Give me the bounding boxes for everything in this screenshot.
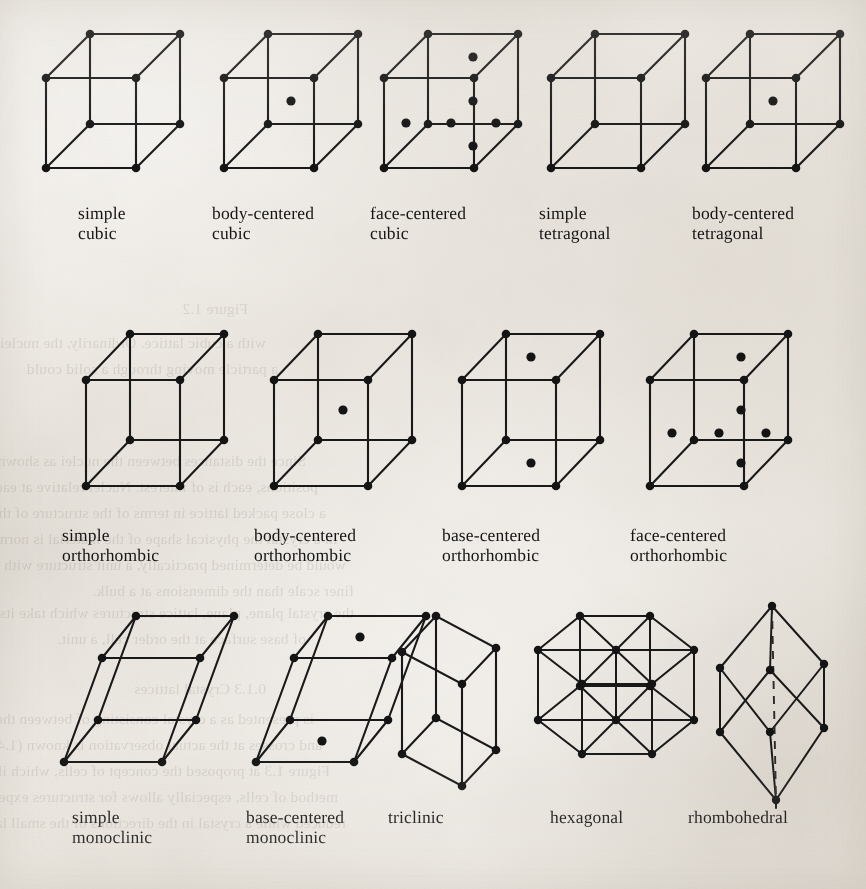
face-dot-top	[736, 352, 745, 361]
cell-face-centered-orthorhombic: face-centered orthorhombic	[644, 328, 794, 496]
cell-hexagonal: hexagonal	[528, 606, 704, 796]
body-center-dot	[338, 405, 347, 414]
rhombohedral-diagram	[712, 600, 840, 810]
simple-orthorhombic-diagram	[80, 328, 230, 496]
face-centered-orthorhombic-diagram	[644, 328, 794, 496]
simple-tetragonal-diagram	[545, 28, 691, 174]
body-center-dot	[286, 96, 295, 105]
body-centered-orthorhombic-diagram	[268, 328, 418, 496]
cell-simple-tetragonal: simple tetragonal	[545, 28, 691, 174]
caption-rhombohedral: rhombohedral	[688, 808, 788, 828]
cell-triclinic: triclinic	[388, 610, 512, 794]
hex-top-center-dot	[612, 646, 620, 654]
simple-cubic-diagram	[40, 28, 186, 174]
apex-top	[768, 602, 776, 610]
base-centered-orthorhombic-diagram	[456, 328, 606, 496]
body-centered-cubic-diagram	[218, 28, 364, 174]
base-center-dot-bottom	[526, 458, 535, 467]
face-dot-back	[468, 96, 477, 105]
face-dot-bottom	[468, 141, 477, 150]
face-dot-left	[401, 118, 410, 127]
caption-body-centered-cubic: body-centered cubic	[212, 204, 314, 243]
cell-simple-monoclinic: simple monoclinic	[58, 610, 248, 780]
cell-body-centered-cubic: body-centered cubic	[218, 28, 364, 174]
face-dot-back	[736, 405, 745, 414]
face-dot-top	[468, 52, 477, 61]
caption-body-centered-tetragonal: body-centered tetragonal	[692, 204, 794, 243]
caption-body-centered-orthorhombic: body-centered orthorhombic	[254, 526, 356, 565]
face-dot-left	[667, 428, 676, 437]
caption-simple-monoclinic: simple monoclinic	[72, 808, 152, 847]
caption-face-centered-cubic: face-centered cubic	[370, 204, 466, 243]
caption-simple-orthorhombic: simple orthorhombic	[62, 526, 159, 565]
caption-base-centered-orthorhombic: base-centered orthorhombic	[442, 526, 540, 565]
cell-body-centered-tetragonal: body-centered tetragonal	[700, 28, 846, 174]
cell-face-centered-cubic: face-centered cubic	[378, 28, 524, 174]
cell-base-centered-orthorhombic: base-centered orthorhombic	[456, 328, 606, 496]
base-center-dot-top	[355, 632, 364, 641]
caption-face-centered-orthorhombic: face-centered orthorhombic	[630, 526, 727, 565]
bravais-lattice-figure: simple cubic	[0, 0, 866, 889]
body-center-dot	[768, 96, 777, 105]
cell-body-centered-orthorhombic: body-centered orthorhombic	[268, 328, 418, 496]
cell-simple-cubic: simple cubic	[40, 28, 186, 174]
caption-simple-cubic: simple cubic	[78, 204, 126, 243]
face-dot-front	[446, 118, 455, 127]
base-center-dot-bottom	[317, 736, 326, 745]
cell-simple-orthorhombic: simple orthorhombic	[80, 328, 230, 496]
hex-bottom-center-dot	[612, 716, 620, 724]
apex-bottom	[772, 796, 780, 804]
base-center-dot-top	[526, 352, 535, 361]
face-dot-bottom	[736, 458, 745, 467]
face-centered-cubic-diagram	[378, 28, 524, 174]
hexagonal-diagram	[528, 606, 704, 796]
body-centered-tetragonal-diagram	[700, 28, 846, 174]
caption-hexagonal: hexagonal	[550, 808, 623, 828]
face-dot-front	[714, 428, 723, 437]
caption-simple-tetragonal: simple tetragonal	[539, 204, 610, 243]
face-dot-right	[761, 428, 770, 437]
face-dot-right	[491, 118, 500, 127]
cell-rhombohedral: rhombohedral	[712, 600, 840, 810]
triclinic-diagram	[388, 610, 512, 794]
simple-monoclinic-diagram	[58, 610, 248, 780]
caption-triclinic: triclinic	[388, 808, 444, 828]
caption-base-centered-monoclinic: base-centered monoclinic	[246, 808, 344, 847]
